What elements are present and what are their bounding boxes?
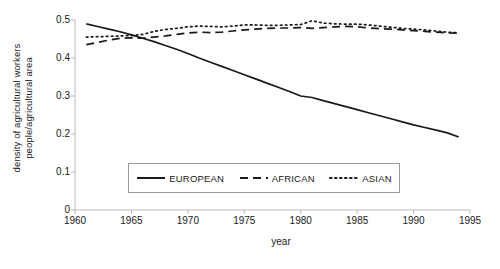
legend-swatch-dotted-icon xyxy=(329,173,359,183)
series-line-african xyxy=(86,26,458,44)
x-axis-tick-label: 1965 xyxy=(120,216,142,226)
x-axis-tick-label: 1980 xyxy=(290,216,312,226)
legend-label: EUROPEAN xyxy=(169,173,224,184)
legend-item-european[interactable]: EUROPEAN xyxy=(136,173,224,184)
x-axis-tick-label: 1975 xyxy=(233,216,255,226)
legend-swatch-dashed-icon xyxy=(239,173,269,183)
x-axis-title: year xyxy=(0,236,500,247)
x-axis-tick-label: 1960 xyxy=(64,216,86,226)
legend-swatch-solid-icon xyxy=(136,173,166,183)
series-line-european xyxy=(86,24,458,137)
x-axis-tick-label: 1985 xyxy=(346,216,368,226)
legend: EUROPEANAFRICANASIAN xyxy=(128,163,400,193)
legend-item-asian[interactable]: ASIAN xyxy=(329,173,392,184)
x-axis-tick-label: 1995 xyxy=(459,216,481,226)
x-axis-tick-label: 1970 xyxy=(177,216,199,226)
legend-label: ASIAN xyxy=(362,173,392,184)
x-axis-tick-labels: 19601965197019751980198519901995 xyxy=(0,216,500,232)
chart-container: density of agricultural workers people/a… xyxy=(0,0,500,269)
legend-label: AFRICAN xyxy=(272,173,315,184)
x-axis-title-text: year xyxy=(271,236,290,247)
x-axis-tick-label: 1990 xyxy=(402,216,424,226)
legend-item-african[interactable]: AFRICAN xyxy=(239,173,315,184)
